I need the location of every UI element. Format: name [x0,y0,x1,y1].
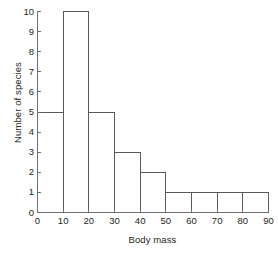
histogram-bar [166,192,192,212]
histogram-bar [38,112,64,213]
histogram-figure: Number of species Body mass 012345678910… [0,0,278,253]
plot-area [0,0,278,253]
histogram-bar [89,112,115,213]
histogram-bar [192,192,218,212]
bars-group [38,12,269,213]
histogram-bar [217,192,243,212]
histogram-bar [140,172,166,212]
histogram-bar [63,12,89,213]
histogram-bar [115,152,141,212]
histogram-bar [243,192,269,212]
